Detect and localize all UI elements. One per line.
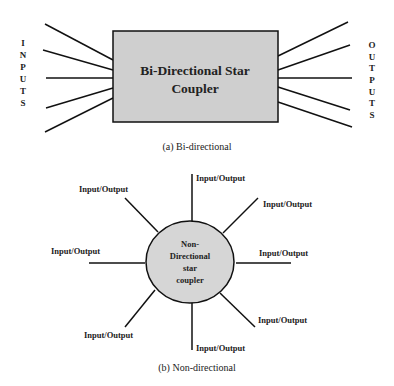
svg-text:P: P [20,62,26,72]
port-bottom-right: Input/Output [258,315,307,325]
svg-text:Directional: Directional [170,251,211,261]
svg-text:T: T [369,63,375,73]
svg-text:S: S [369,110,374,120]
caption-a: (a) Bi-directional [162,141,231,153]
svg-text:U: U [369,52,376,62]
box-label-line2: Coupler [171,81,218,96]
inputs-label: I N P U T S [20,38,27,108]
svg-text:Non-: Non- [181,239,199,249]
svg-text:N: N [20,50,27,60]
port-top-left: Input/Output [79,184,128,194]
caption-b: (b) Non-directional [158,362,236,374]
port-bottom: Input/Output [196,343,245,353]
outputs-label: O U T P U T S [368,40,375,120]
svg-text:P: P [369,75,375,85]
port-left: Input/Output [51,246,100,256]
port-top: Input/Output [196,173,245,183]
box-label-line1: Bi-Directional Star [140,63,250,78]
svg-text:T: T [20,86,26,96]
svg-text:I: I [21,38,25,48]
svg-text:T: T [369,98,375,108]
port-right: Input/Output [259,248,308,258]
star-coupler-figure: Bi-Directional Star Coupler I N P U T S … [0,0,394,386]
figure-canvas: Bi-Directional Star Coupler I N P U T S … [0,0,394,386]
svg-text:S: S [20,98,25,108]
svg-text:O: O [368,40,375,50]
nondirectional-coupler-circle [146,221,234,303]
svg-text:U: U [369,87,376,97]
svg-text:coupler: coupler [176,275,204,285]
svg-text:star: star [183,263,197,273]
port-bottom-left: Input/Output [84,330,133,340]
svg-text:U: U [20,74,27,84]
port-top-right: Input/Output [263,199,312,209]
